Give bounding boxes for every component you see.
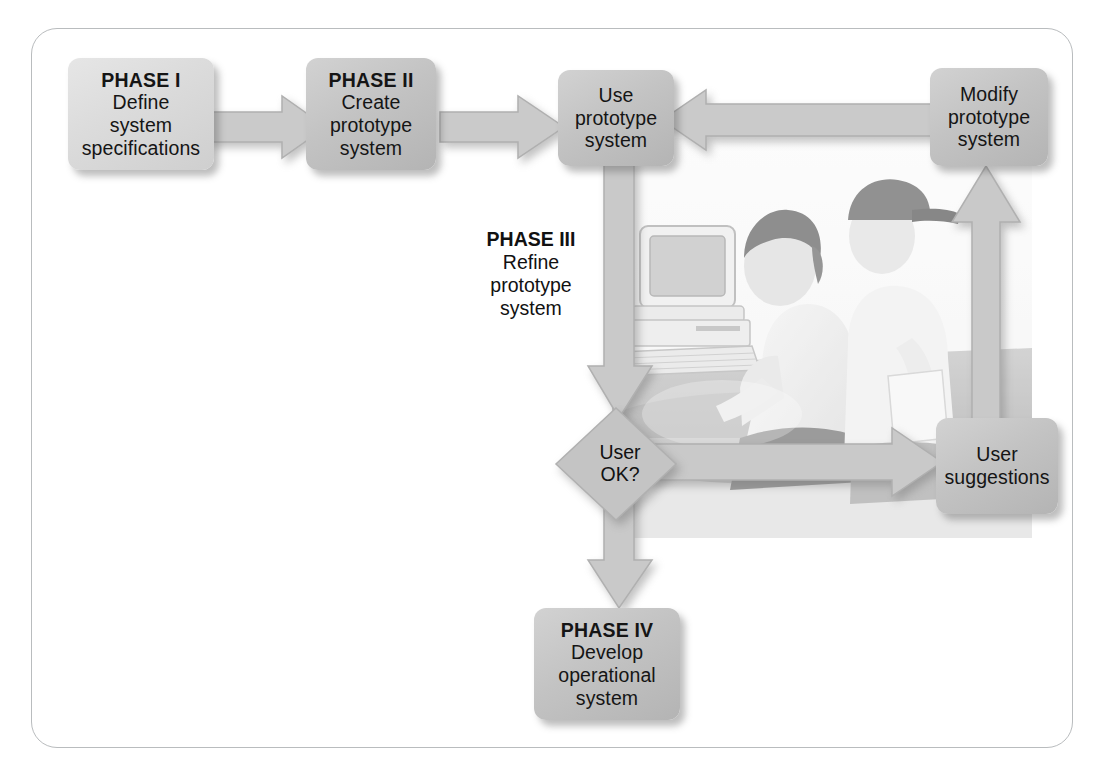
phase-3-line-3: system <box>500 297 562 319</box>
decision-line-1: User <box>599 441 640 463</box>
diagram-canvas: PHASE I Define system specifications PHA… <box>0 0 1099 768</box>
use-prototype-line-2: prototype <box>575 107 657 129</box>
phase-2-line-1: Create <box>341 91 400 113</box>
node-use-prototype-system[interactable]: Use prototype system <box>558 70 674 166</box>
arrow-decision-to-user-suggestions <box>646 428 946 498</box>
node-user-suggestions[interactable]: User suggestions <box>936 418 1058 514</box>
decision-label: User OK? <box>552 441 680 485</box>
arrow-phase2-to-use-prototype <box>440 94 566 160</box>
use-prototype-line-1: Use <box>599 84 634 106</box>
phase-2-heading: PHASE II <box>312 69 430 92</box>
arrow-user-suggestions-to-modify <box>948 166 1024 434</box>
modify-prototype-line-2: prototype <box>948 106 1030 128</box>
phase-4-line-3: system <box>576 687 638 709</box>
phase-1-line-3: specifications <box>82 137 200 159</box>
phase-2-line-2: prototype <box>330 114 412 136</box>
node-phase-2[interactable]: PHASE II Create prototype system <box>306 58 436 170</box>
label-phase-3: PHASE III Refine prototype system <box>443 228 619 320</box>
user-suggestions-line-1: User <box>976 443 1018 465</box>
phase-4-heading: PHASE IV <box>540 619 674 642</box>
node-phase-4[interactable]: PHASE IV Develop operational system <box>534 608 680 720</box>
phase-4-line-1: Develop <box>571 641 643 663</box>
phase-4-line-2: operational <box>558 664 656 686</box>
modify-prototype-line-1: Modify <box>960 83 1018 105</box>
user-suggestions-line-2: suggestions <box>944 466 1049 488</box>
phase-1-line-1: Define <box>113 91 170 113</box>
node-modify-prototype-system[interactable]: Modify prototype system <box>930 68 1048 166</box>
node-decision-user-ok[interactable]: User OK? <box>552 404 680 524</box>
phase-3-line-2: prototype <box>490 274 571 296</box>
phase-2-line-3: system <box>340 137 402 159</box>
phase-1-line-2: system <box>110 114 172 136</box>
phase-1-heading: PHASE I <box>74 69 208 92</box>
decision-line-2: OK? <box>600 463 639 485</box>
phase-3-line-1: Refine <box>503 251 559 273</box>
arrow-modify-to-use-prototype <box>660 90 950 152</box>
use-prototype-line-3: system <box>585 129 647 151</box>
modify-prototype-line-3: system <box>958 128 1020 150</box>
node-phase-1[interactable]: PHASE I Define system specifications <box>68 58 214 170</box>
phase-3-heading: PHASE III <box>443 228 619 251</box>
